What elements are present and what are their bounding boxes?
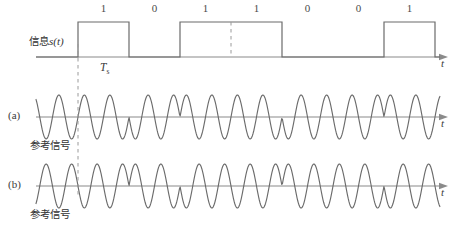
message-signal-label: 信息s(t) (29, 36, 64, 47)
t-axis-label-a: t (441, 118, 444, 129)
bit-label: 1 (400, 3, 420, 14)
symbol-period-label: Ts (100, 62, 109, 76)
bit-label: 0 (145, 3, 165, 14)
bit-label: 1 (247, 3, 267, 14)
t-axis-label-b: t (441, 187, 444, 198)
message-signal-label-math: s(t) (49, 35, 64, 47)
reference-signal-caption-a: 参考信号 (30, 140, 70, 151)
psk-modulation-figure (0, 0, 455, 234)
symbol-period-subscript: s (106, 67, 109, 76)
bit-label: 0 (349, 3, 369, 14)
row-label-a: (a) (8, 110, 20, 121)
bit-label: 1 (94, 3, 114, 14)
bit-label: 1 (196, 3, 216, 14)
t-axis-label-message: t (441, 58, 444, 69)
reference-signal-caption-b: 参考信号 (30, 209, 70, 220)
message-signal-label-cjk: 信息 (29, 35, 49, 47)
bit-label: 0 (298, 3, 318, 14)
message-signal-waveform (36, 22, 440, 57)
row-label-b: (b) (8, 179, 21, 190)
